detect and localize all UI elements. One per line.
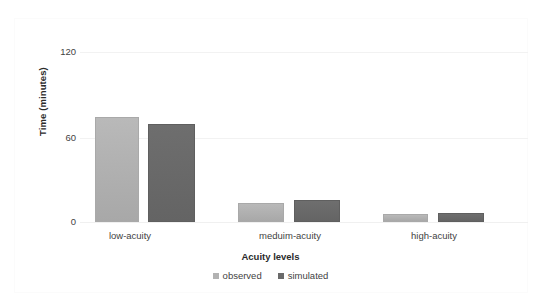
legend-swatch-icon-simulated xyxy=(278,273,284,279)
bar-high-acuity-observed xyxy=(383,214,428,222)
y-axis-title: Time (minutes) xyxy=(37,52,48,152)
legend-label-simulated: simulated xyxy=(288,270,329,281)
x-axis-baseline xyxy=(80,222,528,223)
legend-swatch-icon-observed xyxy=(213,273,219,279)
bar-chart-figure: 120 60 0 Time (minutes) low-acuity medui… xyxy=(0,0,541,307)
legend-item-observed: observed xyxy=(213,270,262,281)
legend-label-observed: observed xyxy=(223,270,262,281)
legend-item-simulated: simulated xyxy=(278,270,329,281)
bar-high-acuity-simulated xyxy=(438,213,484,222)
plot-area xyxy=(80,45,528,222)
x-tick-label-low-acuity: low-acuity xyxy=(75,230,185,241)
bar-medium-acuity-simulated xyxy=(294,200,340,222)
x-tick-label-medium-acuity: meduim-acuity xyxy=(235,230,345,241)
gridline-120 xyxy=(80,52,528,53)
x-axis-title: Acuity levels xyxy=(0,251,541,262)
bar-low-acuity-simulated xyxy=(148,124,195,222)
bar-medium-acuity-observed xyxy=(238,203,284,222)
x-tick-label-high-acuity: high-acuity xyxy=(379,230,489,241)
y-tick-label-0: 0 xyxy=(36,217,76,227)
chart-legend: observed simulated xyxy=(0,270,541,281)
bar-low-acuity-observed xyxy=(95,117,139,222)
